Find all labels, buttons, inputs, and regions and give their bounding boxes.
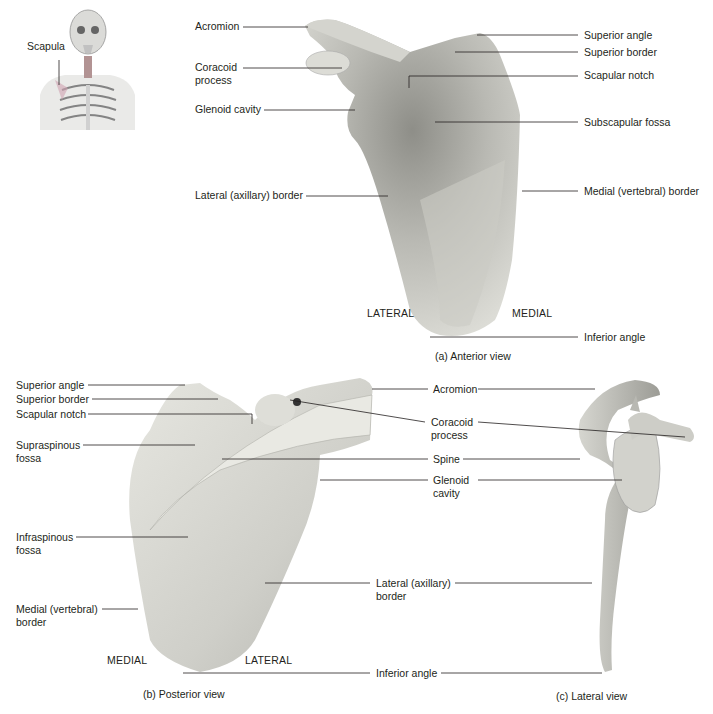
label-infraspinous-2: fossa bbox=[16, 544, 41, 557]
caption-anterior-view: (a) Anterior view bbox=[435, 350, 511, 362]
inset-scapula-label: Scapula bbox=[27, 40, 65, 53]
label-lateral-border-shared-2: border bbox=[376, 590, 406, 603]
label-coracoid-anterior-2: process bbox=[195, 74, 232, 87]
label-superior-border-posterior: Superior border bbox=[16, 393, 89, 406]
label-coracoid-anterior-1: Coracoid bbox=[195, 61, 237, 74]
label-acromion-anterior: Acromion bbox=[195, 20, 239, 33]
label-acromion-shared: Acromion bbox=[433, 383, 477, 396]
label-lateral-border-shared-1: Lateral (axillary) bbox=[376, 577, 451, 590]
label-superior-border-anterior: Superior border bbox=[584, 46, 657, 59]
caption-lateral-view: (c) Lateral view bbox=[556, 690, 627, 702]
label-scapular-notch-anterior: Scapular notch bbox=[584, 69, 654, 82]
label-supraspinous-2: fossa bbox=[16, 452, 41, 465]
label-coracoid-shared-1: Coracoid bbox=[431, 416, 473, 429]
label-lateral-border-anterior: Lateral (axillary) border bbox=[195, 189, 303, 202]
label-medial-border-posterior-2: border bbox=[16, 616, 46, 629]
label-glenoid-shared-1: Glenoid bbox=[433, 474, 469, 487]
label-spine: Spine bbox=[433, 453, 460, 466]
label-superior-angle-posterior: Superior angle bbox=[16, 379, 84, 392]
anterior-scapula bbox=[305, 20, 520, 336]
direction-lateral-posterior: LATERAL bbox=[245, 654, 292, 666]
label-medial-border-anterior: Medial (vertebral) border bbox=[584, 185, 699, 198]
label-glenoid-anterior: Glenoid cavity bbox=[195, 103, 261, 116]
direction-medial-anterior: MEDIAL bbox=[512, 307, 552, 319]
label-glenoid-shared-2: cavity bbox=[433, 487, 460, 500]
label-scapular-notch-posterior: Scapular notch bbox=[16, 408, 86, 421]
label-supraspinous-1: Supraspinous bbox=[16, 439, 80, 452]
direction-lateral-anterior: LATERAL bbox=[367, 307, 414, 319]
inset-skeleton bbox=[40, 10, 135, 130]
label-subscapular-fossa: Subscapular fossa bbox=[584, 116, 670, 129]
label-coracoid-shared-2: process bbox=[431, 429, 468, 442]
caption-posterior-view: (b) Posterior view bbox=[143, 688, 225, 700]
label-inferior-angle-anterior: Inferior angle bbox=[584, 331, 645, 344]
label-medial-border-posterior-1: Medial (vertebral) bbox=[16, 603, 98, 616]
posterior-scapula bbox=[129, 378, 372, 672]
lateral-scapula bbox=[579, 380, 694, 672]
label-infraspinous-1: Infraspinous bbox=[16, 531, 73, 544]
scapula-illustration bbox=[0, 0, 713, 714]
direction-medial-posterior: MEDIAL bbox=[107, 654, 147, 666]
label-inferior-angle-shared: Inferior angle bbox=[376, 667, 437, 680]
label-superior-angle-anterior: Superior angle bbox=[584, 29, 652, 42]
